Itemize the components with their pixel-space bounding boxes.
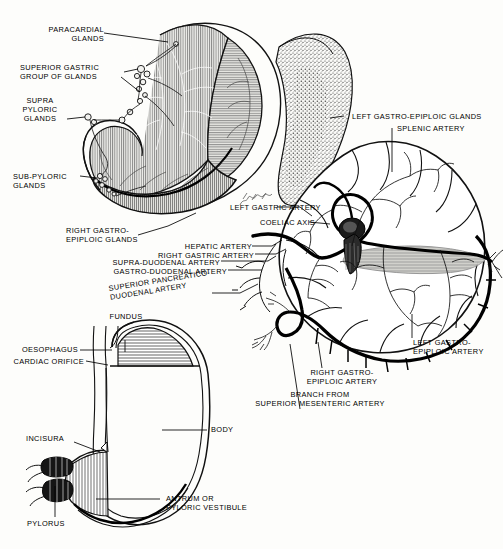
label-splenic-artery: SPLENIC ARTERY <box>397 124 465 133</box>
label-oesophagus: OESOPHAGUS <box>0 345 78 354</box>
label-paracardial-glands: PARACARDIAL GLANDS <box>0 25 104 43</box>
label-right-gastro-epiploic-glands: RIGHT GASTRO- EPIPLOIC GLANDS <box>66 226 140 244</box>
label-superior-gastric-group-of-glands: SUPERIOR GASTRIC GROUP OF GLANDS <box>20 63 132 81</box>
label-body: BODY <box>211 425 233 434</box>
label-coeliac-axis: COELIAC AXIS <box>260 218 315 227</box>
label-antrum-or-pyloric-vestibule: ANTRUM OR PYLORIC VESTIBULE <box>166 494 286 512</box>
label-pylorus: PYLORUS <box>27 519 65 528</box>
label-left-gastro-epiploic-artery: LEFT GASTRO- EPIPLOIC ARTERY <box>413 338 493 356</box>
label-fundus: FUNDUS <box>104 312 148 321</box>
label-cardiac-orifice: CARDIAC ORIFICE <box>0 357 84 366</box>
label-left-gastro-epiploic-glands: LEFT GASTRO-EPIPLOIC GLANDS <box>352 112 482 121</box>
label-right-gastro-epiploic-artery: RIGHT GASTRO- EPIPLOIC ARTERY <box>296 368 388 386</box>
label-sub-pyloric-glands: SUB-PYLORIC GLANDS <box>13 172 93 190</box>
label-hepatic-artery: HEPATIC ARTERY <box>160 242 252 251</box>
label-branch-from-superior-mesenteric-artery: BRANCH FROM SUPERIOR MESENTERIC ARTERY <box>240 390 400 408</box>
label-left-gastric-artery: LEFT GASTRIC ARTERY <box>230 203 321 212</box>
anatomical-illustration <box>0 0 503 549</box>
label-incisura: INCISURA <box>26 434 64 443</box>
supra-pyloric-gland-node <box>85 114 91 120</box>
label-supra-pyloric-glands: SUPRA PYLORIC GLANDS <box>13 96 67 124</box>
label-supra-duodenal-artery: SUPRA-DUODENAL ARTERY <box>96 258 220 267</box>
superior-gastric-gland-node <box>137 65 144 72</box>
anatomy-plate: PARACARDIAL GLANDS SUPERIOR GASTRIC GROU… <box>0 0 503 549</box>
